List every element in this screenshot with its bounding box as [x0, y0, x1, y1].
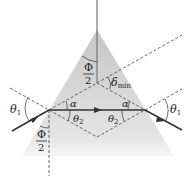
theta1-left-arc	[25, 97, 29, 121]
phi-bottom-numerator: Φ	[37, 128, 46, 141]
prism-diagram: θ1 θ1 α α θ2 θ2 Φ 2 Φ 2 δmin	[0, 0, 192, 177]
theta1-right-arc	[165, 99, 168, 122]
theta1-right-label: θ1	[170, 103, 181, 117]
alpha-left-label: α	[70, 98, 77, 109]
theta1-left-label: θ1	[10, 103, 21, 117]
alpha-right-label: α	[122, 98, 129, 109]
phi-bottom-denominator: 2	[38, 142, 44, 153]
phi-top-denominator: 2	[85, 75, 91, 86]
phi-top-numerator: Φ	[84, 61, 93, 74]
